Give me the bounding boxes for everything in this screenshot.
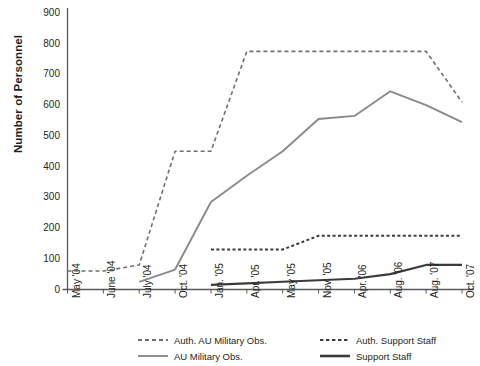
- x-tick-label: Aug. '06: [394, 261, 404, 297]
- legend-item-support-staff: Support Staff: [320, 350, 411, 362]
- plot-area: [0, 0, 480, 366]
- series-line-au-military-obs: [139, 91, 462, 281]
- legend-swatch-dashed-gray: [138, 335, 168, 345]
- x-tick-label: Jan. '05: [215, 263, 225, 298]
- legend-swatch-dotted-dark: [320, 335, 350, 345]
- x-tick-label: Oct. '07: [466, 263, 476, 297]
- x-tick-label: Aug. '07: [430, 261, 440, 297]
- legend-item-au-military-obs: AU Military Obs.: [138, 350, 243, 362]
- x-tick-label: May '04: [72, 263, 82, 298]
- x-tick-label: Nov. '05: [323, 262, 333, 298]
- legend-swatch-solid-gray: [138, 351, 168, 361]
- x-tick-label: May '05: [287, 263, 297, 298]
- x-tick-label: June '04: [107, 260, 117, 298]
- legend-swatch-solid-dark: [320, 351, 350, 361]
- legend-item-auth-au-military-obs: Auth. AU Military Obs.: [138, 334, 267, 346]
- legend-item-auth-support-staff: Auth. Support Staff: [320, 334, 436, 346]
- legend-label: Auth. AU Military Obs.: [174, 335, 267, 346]
- legend-label: Auth. Support Staff: [356, 335, 436, 346]
- x-tick-label: July '04: [143, 264, 153, 298]
- series-line-auth-support-staff: [211, 236, 462, 250]
- personnel-line-chart: Number of Personnel 01002003004005006007…: [0, 0, 480, 366]
- legend-label: AU Military Obs.: [174, 351, 243, 362]
- series-line-auth-au-military-obs: [68, 51, 463, 271]
- x-tick-label: Apr. '06: [358, 264, 368, 298]
- chart-legend: Auth. AU Military Obs. Auth. Support Sta…: [138, 334, 468, 364]
- x-tick-label: Apr. '05: [251, 264, 261, 298]
- x-tick-label: Oct. '04: [179, 263, 189, 297]
- legend-label: Support Staff: [356, 351, 411, 362]
- series-line-support-staff: [211, 265, 462, 285]
